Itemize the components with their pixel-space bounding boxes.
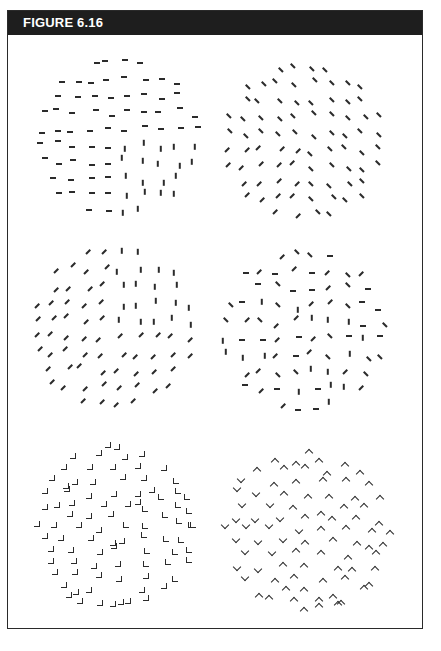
line-element bbox=[274, 388, 280, 390]
line-element bbox=[123, 304, 125, 310]
line-element bbox=[298, 389, 300, 395]
line-element bbox=[222, 338, 224, 344]
line-element bbox=[309, 272, 315, 274]
line-element bbox=[87, 130, 93, 132]
corner-element-backward bbox=[141, 475, 147, 481]
line-element bbox=[360, 325, 366, 327]
corner-element-l bbox=[142, 523, 148, 529]
corner-element-backward bbox=[58, 535, 64, 541]
corner-element-backward bbox=[52, 569, 58, 575]
line-element bbox=[67, 131, 73, 133]
figure-title: FIGURE 6.16 bbox=[23, 15, 103, 30]
line-element bbox=[42, 110, 48, 112]
line-element bbox=[195, 126, 201, 128]
line-element bbox=[86, 209, 92, 211]
line-element bbox=[315, 388, 321, 390]
line-element bbox=[121, 155, 123, 161]
line-element bbox=[123, 282, 125, 288]
corner-element-backward bbox=[88, 535, 94, 541]
corner-element-backward bbox=[143, 573, 149, 579]
corner-element-l bbox=[176, 518, 182, 524]
line-element bbox=[375, 309, 381, 311]
corner-element-backward bbox=[42, 488, 48, 494]
corner-element-backward bbox=[54, 502, 60, 508]
line-element bbox=[116, 269, 118, 275]
corner-element-backward bbox=[34, 521, 40, 527]
corner-element-backward bbox=[72, 479, 78, 485]
line-element bbox=[188, 305, 190, 311]
corner-element-backward bbox=[116, 576, 122, 582]
line-element bbox=[105, 176, 111, 178]
corner-element-backward bbox=[135, 463, 141, 469]
corner-element-backward bbox=[110, 601, 116, 607]
corner-element-backward bbox=[125, 598, 131, 604]
corner-element-backward bbox=[86, 587, 92, 593]
corner-element-l bbox=[173, 478, 179, 484]
line-element bbox=[144, 189, 146, 195]
line-element bbox=[173, 144, 175, 150]
line-element bbox=[297, 307, 299, 313]
line-element bbox=[142, 180, 144, 186]
corner-element-backward bbox=[61, 582, 67, 588]
line-element bbox=[175, 173, 177, 179]
line-element bbox=[68, 179, 74, 181]
corner-element-backward bbox=[161, 583, 167, 589]
line-element bbox=[105, 147, 111, 149]
line-element bbox=[103, 79, 109, 81]
line-element bbox=[121, 76, 127, 78]
corner-element-backward bbox=[68, 547, 74, 553]
line-element bbox=[155, 111, 161, 113]
line-element bbox=[158, 267, 160, 273]
line-element bbox=[75, 96, 81, 98]
line-element bbox=[242, 355, 244, 361]
line-element bbox=[94, 62, 100, 64]
line-element bbox=[121, 130, 127, 132]
line-element bbox=[160, 190, 162, 196]
line-element bbox=[124, 146, 126, 152]
line-element bbox=[327, 255, 333, 257]
line-element bbox=[55, 130, 61, 132]
line-element bbox=[328, 399, 330, 405]
line-element bbox=[290, 290, 296, 292]
corner-element-backward bbox=[161, 465, 167, 471]
corner-element-l bbox=[165, 559, 171, 565]
line-element bbox=[135, 303, 137, 309]
line-element bbox=[272, 273, 278, 275]
line-element bbox=[118, 317, 120, 323]
corner-element-l bbox=[186, 547, 192, 553]
corner-element-l bbox=[175, 502, 181, 508]
line-element bbox=[42, 157, 48, 159]
corner-element-backward bbox=[69, 500, 75, 506]
line-element bbox=[343, 384, 345, 390]
corner-element-backward bbox=[101, 501, 107, 507]
line-element bbox=[158, 128, 164, 130]
corner-element-backward bbox=[118, 599, 124, 605]
line-element bbox=[55, 95, 61, 97]
line-element bbox=[157, 161, 159, 167]
line-element bbox=[163, 180, 165, 186]
line-element bbox=[135, 281, 137, 287]
corner-element-backward bbox=[70, 453, 76, 459]
corner-element-backward bbox=[105, 442, 111, 448]
line-element bbox=[178, 127, 184, 129]
corner-element-l bbox=[175, 488, 181, 494]
corner-element-backward bbox=[96, 450, 102, 456]
line-element bbox=[309, 289, 315, 291]
line-element bbox=[106, 210, 112, 212]
corner-element-backward bbox=[96, 572, 102, 578]
figure-frame: FIGURE 6.16 bbox=[7, 10, 423, 629]
line-element bbox=[171, 315, 173, 321]
line-element bbox=[239, 301, 245, 303]
corner-element-backward bbox=[72, 569, 78, 575]
corner-element-backward bbox=[77, 598, 83, 604]
corner-element-backward bbox=[48, 546, 54, 552]
line-element bbox=[179, 163, 181, 169]
corner-element-backward bbox=[97, 600, 103, 606]
corner-element-l bbox=[186, 557, 192, 563]
line-element bbox=[50, 177, 56, 179]
line-element bbox=[159, 78, 165, 80]
corner-element-backward bbox=[115, 561, 121, 567]
line-element bbox=[153, 319, 155, 325]
line-element bbox=[105, 163, 111, 165]
line-element bbox=[243, 272, 249, 274]
